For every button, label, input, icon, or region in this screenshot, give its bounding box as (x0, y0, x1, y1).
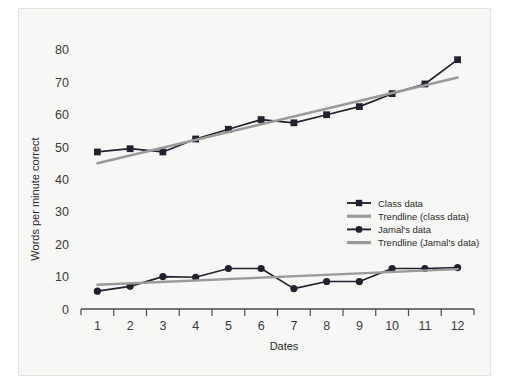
data-series-group (94, 56, 461, 295)
line-chart-plot: 01020304050607080 123456789101112 Words … (19, 9, 492, 377)
legend-square-marker (356, 200, 362, 206)
data-point-marker (356, 278, 363, 285)
chart-legend: Class dataTrendline (class data)Jamal's … (347, 198, 479, 249)
x-tick-label: 12 (451, 319, 465, 333)
data-point-marker (323, 278, 330, 285)
x-tick-label: 10 (385, 319, 399, 333)
data-point-marker (258, 116, 265, 123)
trendline-path (97, 269, 457, 285)
chart-figure: 01020304050607080 123456789101112 Words … (18, 8, 491, 376)
data-point-marker (258, 265, 265, 272)
legend-circle-marker (356, 226, 363, 233)
legend-label: Class data (378, 198, 424, 209)
x-axis-title: Dates (270, 340, 299, 352)
chart-axes (81, 309, 474, 316)
data-point-marker (127, 145, 134, 152)
data-point-marker (225, 265, 232, 272)
y-axis-title: Words per minute correct (29, 137, 41, 260)
x-tick-label: 1 (94, 319, 101, 333)
x-tick-label: 3 (159, 319, 166, 333)
legend-label: Trendline (Jamal's data) (378, 237, 479, 248)
x-tick-label: 9 (356, 319, 363, 333)
y-tick-label: 30 (55, 205, 69, 219)
y-tick-label: 60 (55, 108, 69, 122)
data-point-marker (94, 149, 101, 156)
x-tick-label: 4 (192, 319, 199, 333)
y-tick-label: 40 (55, 173, 69, 187)
y-axis-tick-labels: 01020304050607080 (55, 43, 69, 316)
data-point-marker (323, 111, 330, 118)
data-point-marker (290, 285, 297, 292)
data-point-marker (94, 288, 101, 295)
data-point-marker (356, 103, 363, 110)
legend-label: Jamal's data (378, 224, 432, 235)
data-point-marker (454, 56, 461, 63)
x-tick-label: 5 (225, 319, 232, 333)
y-tick-label: 80 (55, 43, 69, 57)
y-tick-label: 70 (55, 76, 69, 90)
y-tick-label: 0 (62, 303, 69, 317)
x-tick-label: 7 (290, 319, 297, 333)
data-point-marker (290, 119, 297, 126)
data-point-marker (159, 273, 166, 280)
y-tick-label: 20 (55, 238, 69, 252)
x-tick-label: 6 (258, 319, 265, 333)
x-axis-tick-labels: 123456789101112 (94, 319, 465, 333)
y-tick-label: 50 (55, 141, 69, 155)
y-tick-label: 10 (55, 270, 69, 284)
legend-label: Trendline (class data) (378, 211, 469, 222)
x-tick-label: 11 (418, 319, 431, 333)
trendline-path (97, 77, 457, 163)
x-tick-label: 8 (323, 319, 330, 333)
data-point-marker (159, 149, 166, 156)
series-line-path (97, 60, 457, 152)
x-tick-label: 2 (127, 319, 134, 333)
